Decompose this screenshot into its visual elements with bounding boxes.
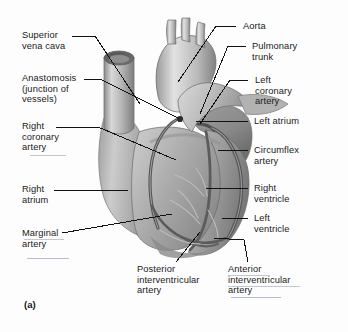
label-line: Marginal bbox=[22, 228, 58, 238]
label-aorta: Aorta bbox=[243, 21, 266, 32]
label-posterior-interventricular-artery: Posteriorinterventricularartery bbox=[137, 264, 200, 296]
label-line: coronary bbox=[255, 86, 292, 96]
label-line: Anterior bbox=[228, 264, 261, 274]
label-anastomosis: Anastomosis(junction ofvessels) bbox=[22, 73, 76, 105]
label-left-atrium: Left atrium bbox=[254, 116, 299, 127]
label-line: atrium bbox=[22, 195, 48, 205]
label-line: artery bbox=[255, 96, 279, 106]
label-line: Circumflex bbox=[254, 145, 299, 155]
underline-mark-marginal-2 bbox=[27, 258, 69, 259]
underline-mark-anterior-2 bbox=[228, 286, 300, 287]
anastomosis-junction-dot bbox=[177, 116, 183, 122]
panel-letter: (a) bbox=[24, 299, 36, 310]
aortic-arch-branch-2 bbox=[181, 18, 190, 42]
label-line: Aorta bbox=[243, 21, 266, 31]
underline-mark-anterior-1 bbox=[228, 275, 270, 276]
label-circumflex-artery: Circumflexartery bbox=[254, 145, 299, 166]
label-pulmonary-trunk: Pulmonarytrunk bbox=[252, 41, 297, 62]
label-line: Right bbox=[22, 121, 44, 131]
underline-mark-anterior-3 bbox=[231, 297, 281, 298]
label-line: artery bbox=[254, 156, 278, 166]
label-right-atrium: Rightatrium bbox=[22, 184, 48, 205]
label-line: Left atrium bbox=[254, 116, 299, 126]
label-line: trunk bbox=[252, 52, 273, 62]
label-line: ventricle bbox=[254, 194, 290, 204]
label-anterior-interventricular-artery: Anteriorinterventricularartery bbox=[228, 264, 291, 296]
label-line: coronary bbox=[22, 132, 59, 142]
underline-mark-marginal-1 bbox=[24, 239, 64, 240]
label-right-coronary-artery: Rightcoronaryartery bbox=[22, 121, 59, 153]
label-line: Right bbox=[22, 184, 44, 194]
label-right-ventricle: Rightventricle bbox=[254, 183, 290, 204]
label-left-ventricle: Leftventricle bbox=[254, 213, 290, 234]
label-line: interventricular bbox=[137, 275, 200, 285]
label-left-coronary-artery: Leftcoronaryartery bbox=[255, 75, 292, 107]
label-line: vena cava bbox=[22, 41, 65, 51]
label-line: Left bbox=[254, 213, 270, 223]
label-line: Right bbox=[254, 183, 276, 193]
label-line: artery bbox=[137, 285, 161, 295]
label-line: Pulmonary bbox=[252, 41, 297, 51]
figure-panel: Superiorvena cava Anastomosis(junction o… bbox=[0, 0, 348, 332]
label-superior-vena-cava: Superiorvena cava bbox=[22, 30, 65, 51]
underline-mark-right-coronary bbox=[30, 155, 66, 156]
label-line: Posterior bbox=[137, 264, 175, 274]
label-line: artery bbox=[22, 239, 46, 249]
label-line: interventricular bbox=[228, 275, 291, 285]
aortic-arch-branch-1 bbox=[167, 20, 177, 44]
label-line: Superior bbox=[22, 30, 58, 40]
label-line: ventricle bbox=[254, 224, 290, 234]
label-line: artery bbox=[22, 142, 46, 152]
label-line: (junction of bbox=[22, 84, 69, 94]
label-line: Anastomosis bbox=[22, 73, 76, 83]
label-line: Left bbox=[255, 75, 271, 85]
label-line: vessels) bbox=[22, 94, 57, 104]
